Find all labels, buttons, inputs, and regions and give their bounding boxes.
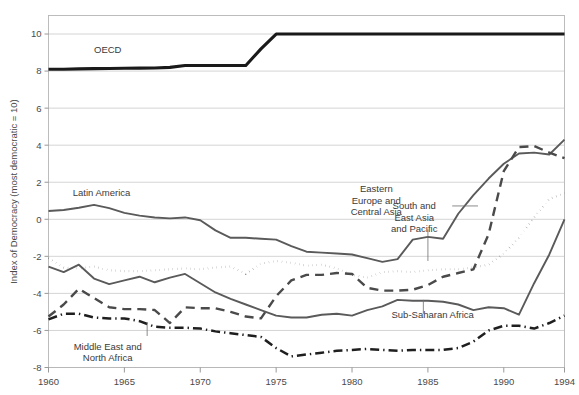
series-line-oecd: [49, 34, 565, 69]
x-tick-label-1990: 1990: [493, 376, 514, 387]
y-tick-label--4: -4: [33, 288, 41, 299]
y-tick-label--2: -2: [33, 251, 41, 262]
series-label-sub-saharan-africa: Sub-Saharan Africa: [391, 309, 474, 320]
y-axis-title: Index of Democracy (most democratic = 10…: [8, 99, 19, 284]
y-tick-label-2: 2: [36, 177, 41, 188]
x-tick-label-1970: 1970: [190, 376, 211, 387]
series-line-latin-america: [49, 140, 565, 262]
series-line-south-and-east-asia-and-pacific: [49, 193, 565, 277]
chart-figure: -8-6-4-202468101960196519701975198019851…: [0, 0, 579, 395]
y-tick-label-10: 10: [31, 28, 42, 39]
series-label-latin-america: Latin America: [73, 187, 131, 198]
democracy-index-line-chart: -8-6-4-202468101960196519701975198019851…: [0, 0, 579, 395]
x-tick-label-1965: 1965: [114, 376, 135, 387]
x-tick-label-1960: 1960: [38, 376, 59, 387]
y-tick-label-8: 8: [36, 65, 41, 76]
x-tick-label-1985: 1985: [417, 376, 438, 387]
series-line-sub-saharan-africa: [49, 219, 565, 317]
y-tick-label--6: -6: [33, 325, 41, 336]
y-tick-label--8: -8: [33, 362, 41, 373]
series-line-eastern-europe-and-central-asia: [49, 146, 565, 323]
x-tick-label-1994: 1994: [554, 376, 575, 387]
y-tick-label-4: 4: [36, 140, 41, 151]
x-tick-label-1975: 1975: [266, 376, 287, 387]
series-label-eastern-europe-and-central-asia: EasternEurope andCentral Asia: [351, 183, 403, 217]
x-tick-label-1980: 1980: [341, 376, 362, 387]
series-label-middle-east-and-north-africa: Middle East andNorth Africa: [74, 341, 142, 364]
series-label-oecd: OECD: [94, 44, 122, 55]
y-tick-label-6: 6: [36, 103, 41, 114]
y-tick-label-0: 0: [36, 214, 41, 225]
